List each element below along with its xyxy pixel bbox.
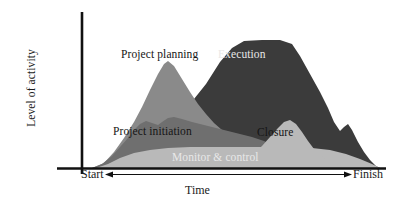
x-axis-finish-label: Finish <box>353 167 383 182</box>
x-axis-start-label: Start <box>81 167 104 182</box>
series-label-project-planning: Project planning <box>121 48 198 60</box>
series-label-project-initiation: Project initiation <box>113 125 192 137</box>
time-direction-arrow <box>105 172 352 178</box>
chart-plot-area <box>0 0 395 207</box>
project-lifecycle-activity-chart: Level of activity Time Start Finish Proj… <box>0 0 395 207</box>
series-label-monitor-control: Monitor & control <box>172 151 259 163</box>
x-axis-title: Time <box>0 183 395 198</box>
series-label-execution: Execution <box>218 48 266 60</box>
time-arrow-head-right <box>344 172 352 178</box>
series-label-closure: Closure <box>257 126 293 138</box>
y-axis-title: Level of activity <box>25 18 37 158</box>
time-arrow-head-left <box>105 172 113 178</box>
